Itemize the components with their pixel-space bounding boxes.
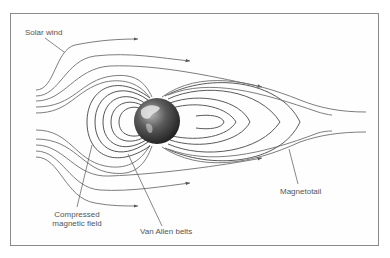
van-allen-label: Van Allen belts bbox=[140, 227, 192, 236]
magnetotail-lines bbox=[162, 81, 366, 163]
magnetotail-label: Magnetotail bbox=[280, 187, 321, 196]
nightside-loops bbox=[165, 83, 300, 161]
solar-wind-label: Solar wind bbox=[25, 28, 62, 37]
compressed-field-label: Compressed magnetic field bbox=[47, 210, 107, 228]
compressed-label-line1: Compressed bbox=[47, 210, 107, 219]
compressed-label-line2: magnetic field bbox=[47, 219, 107, 228]
earth-icon bbox=[134, 98, 180, 144]
